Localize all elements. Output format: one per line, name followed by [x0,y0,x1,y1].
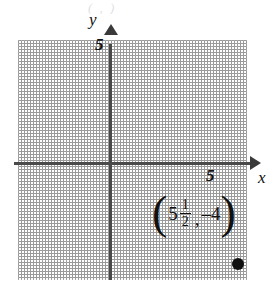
vertical-gridlines [18,40,247,280]
gridline-v [246,40,247,280]
gridline-v [18,40,19,280]
coordinate-grid [18,40,247,280]
cropped-title-remnant: ( , ) [88,0,208,14]
gridline-v [66,40,67,280]
x-axis-line [14,162,252,165]
fraction-numerator: 1 [180,198,191,212]
gridline-v [211,40,212,280]
coordinate-plane-figure: ( , ) [0,0,280,294]
y-axis-tick-label-5: 5 [95,35,104,55]
open-paren: ( [152,195,167,231]
gridline-v [42,40,43,280]
mixed-number-whole-part: 5 [168,203,178,225]
x-axis-label: x [258,168,266,188]
close-paren: ) [221,195,236,231]
point-coordinate-label: ( 5 1 2 , –4 ) [152,196,236,232]
gridline-v [90,40,91,280]
coordinate-separator: , [195,208,200,230]
plotted-point-dot [232,258,244,270]
y-coordinate-value: –4 [202,203,221,225]
y-axis-line [109,44,112,280]
y-axis-label: y [89,10,97,30]
gridline-v [237,40,238,280]
fraction: 1 2 [180,198,191,230]
fraction-denominator: 2 [180,215,191,229]
x-axis-tick-label-5: 5 [206,166,215,186]
gridline-v [135,40,136,280]
y-axis-arrow-icon [104,24,118,35]
gridline-v [160,40,161,280]
gridline-v [186,40,187,280]
